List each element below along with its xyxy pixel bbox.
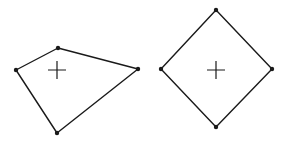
center-cross-icon xyxy=(207,61,225,79)
diamond xyxy=(159,8,274,129)
shapes-figure xyxy=(0,0,288,144)
vertex-dot xyxy=(56,46,60,50)
irregular-quadrilateral-outline xyxy=(16,48,138,133)
vertex-dot xyxy=(214,8,218,12)
vertex-dot xyxy=(14,68,18,72)
diagram-canvas xyxy=(0,0,288,144)
center-cross-icon xyxy=(48,61,66,79)
vertex-dot xyxy=(159,67,163,71)
vertex-dot xyxy=(214,125,218,129)
vertex-dot xyxy=(136,67,140,71)
irregular-quadrilateral xyxy=(14,46,140,135)
vertex-dot xyxy=(55,131,59,135)
vertex-dot xyxy=(270,67,274,71)
